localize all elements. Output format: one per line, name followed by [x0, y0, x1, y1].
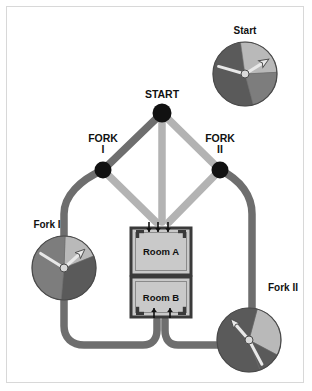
dial-start-segment-light-upper-right — [241, 42, 277, 74]
room-a: Room A — [131, 228, 191, 275]
rooms-layer: Room ARoom B — [131, 228, 191, 317]
node-fork1-label-numeral: I — [102, 143, 105, 155]
room-a-label: Room A — [143, 246, 179, 257]
dial-start-label: Start — [234, 25, 257, 36]
diagram-canvas: Room ARoom B STARTFORKIFORKII StartFork … — [0, 0, 312, 391]
dial-fork2-label: Fork II — [268, 282, 298, 293]
dial-fork2: Fork II — [217, 282, 298, 372]
path-fork1-to-room-a — [103, 170, 156, 222]
path-fork2-to-room-a — [169, 170, 220, 222]
node-fork2-label-numeral: II — [217, 143, 223, 155]
dial-fork1-label: Fork I — [33, 219, 60, 230]
node-start: START — [145, 88, 180, 123]
node-fork1-dot — [95, 162, 112, 179]
node-start-dot — [153, 104, 172, 123]
node-fork2-dot — [212, 162, 229, 179]
maze-diagram-figure: Room ARoom B STARTFORKIFORKII StartFork … — [0, 0, 312, 391]
dial-start: Start — [213, 25, 277, 106]
room-b-label: Room B — [143, 292, 180, 303]
node-start-label: START — [145, 88, 180, 100]
room-b: Room B — [131, 277, 191, 317]
